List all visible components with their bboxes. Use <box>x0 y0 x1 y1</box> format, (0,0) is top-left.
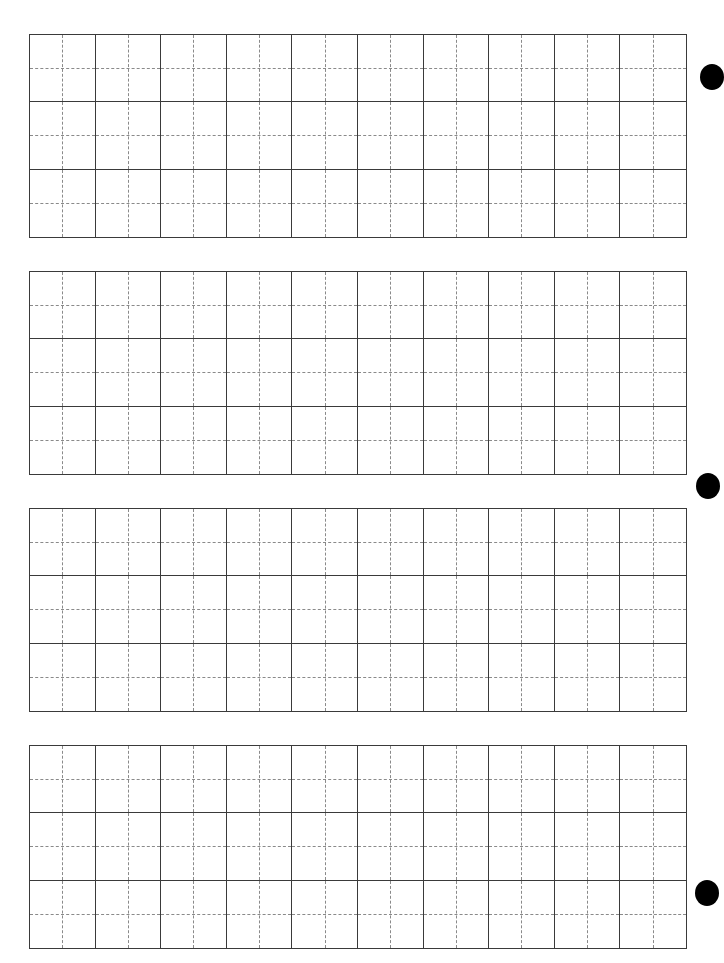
grid-cell <box>292 509 358 576</box>
grid-cell <box>30 35 96 102</box>
grid-cell <box>424 881 490 948</box>
grid-cell <box>489 746 555 813</box>
grid-cell <box>161 746 227 813</box>
grid-cell <box>620 746 686 813</box>
grid-cell <box>620 881 686 948</box>
grid-cell <box>620 644 686 711</box>
grid-cell <box>489 35 555 102</box>
grid-cell <box>555 170 621 237</box>
grid-block-2 <box>29 271 687 475</box>
grid-cell <box>489 576 555 643</box>
grid-cell <box>555 339 621 406</box>
grid-cell <box>424 35 490 102</box>
grid-cell <box>489 813 555 880</box>
grid-cell <box>30 339 96 406</box>
grid-cell <box>424 813 490 880</box>
grid-cell <box>358 170 424 237</box>
grid-cell <box>96 339 162 406</box>
grid-cell <box>620 509 686 576</box>
grid-cell <box>30 881 96 948</box>
grid-cell <box>489 170 555 237</box>
grid-cell <box>489 644 555 711</box>
grid-cell <box>620 102 686 169</box>
punch-hole-1 <box>700 64 724 90</box>
grid-cell <box>292 170 358 237</box>
grid-cell <box>161 881 227 948</box>
grid-cell <box>489 272 555 339</box>
grid-cell <box>358 339 424 406</box>
grid-cell <box>227 644 293 711</box>
grid-cell <box>96 881 162 948</box>
grid-cell <box>161 35 227 102</box>
grid-block-4 <box>29 745 687 949</box>
grid-cell <box>620 576 686 643</box>
grid-cell <box>292 813 358 880</box>
grid-cell <box>555 576 621 643</box>
grid-cell <box>30 102 96 169</box>
grid-cell <box>555 746 621 813</box>
grid-cell <box>489 881 555 948</box>
grid-cell <box>489 509 555 576</box>
grid-cell <box>161 272 227 339</box>
grid-cell <box>555 102 621 169</box>
grid-cell <box>30 407 96 474</box>
grid-cell <box>227 170 293 237</box>
grid-cell <box>292 407 358 474</box>
grid-cell <box>96 272 162 339</box>
grid-cell <box>227 813 293 880</box>
grid-cell <box>292 339 358 406</box>
grid-cell <box>424 102 490 169</box>
grid-cell <box>292 746 358 813</box>
grid-cell <box>555 881 621 948</box>
grid-cell <box>620 339 686 406</box>
grid-cell <box>161 813 227 880</box>
grid-cell <box>489 407 555 474</box>
grid-cell <box>424 644 490 711</box>
grid-cell <box>358 644 424 711</box>
grid-cell <box>227 746 293 813</box>
grid-cell <box>161 102 227 169</box>
grid-cell <box>96 407 162 474</box>
grid-block-3 <box>29 508 687 712</box>
grid-cell <box>161 407 227 474</box>
grid-cell <box>30 813 96 880</box>
grid-cell <box>424 509 490 576</box>
grid-cell <box>424 746 490 813</box>
grid-cell <box>424 272 490 339</box>
grid-cell <box>96 509 162 576</box>
grid-cell <box>30 509 96 576</box>
grid-cell <box>358 102 424 169</box>
grid-cell <box>30 746 96 813</box>
grid-cell <box>161 170 227 237</box>
grid-cell <box>227 407 293 474</box>
grid-cell <box>358 881 424 948</box>
grid-cell <box>227 509 293 576</box>
grid-cell <box>96 102 162 169</box>
grid-cell <box>292 102 358 169</box>
grid-cell <box>161 576 227 643</box>
grid-cell <box>30 576 96 643</box>
grid-cell <box>555 509 621 576</box>
grid-cell <box>227 272 293 339</box>
grid-cell <box>227 576 293 643</box>
grid-cell <box>96 170 162 237</box>
grid-cell <box>424 339 490 406</box>
grid-cell <box>358 746 424 813</box>
grid-cell <box>358 407 424 474</box>
grid-cell <box>292 881 358 948</box>
grid-cell <box>358 576 424 643</box>
grid-cell <box>96 35 162 102</box>
grid-cell <box>227 35 293 102</box>
grid-cell <box>358 35 424 102</box>
grid-cell <box>489 102 555 169</box>
grid-cell <box>620 813 686 880</box>
grid-cell <box>555 407 621 474</box>
grid-cell <box>620 272 686 339</box>
grid-cell <box>30 272 96 339</box>
grid-block-1 <box>29 34 687 238</box>
grid-cell <box>424 407 490 474</box>
grid-cell <box>161 509 227 576</box>
grid-cell <box>358 813 424 880</box>
grid-cell <box>292 576 358 643</box>
grid-cell <box>424 576 490 643</box>
